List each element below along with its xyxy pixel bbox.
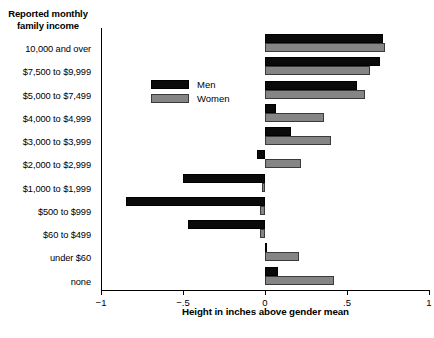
x-axis-title: Height in inches above gender mean [101, 306, 430, 317]
legend-swatch-men [151, 80, 189, 89]
category-label: $3,000 to $3,999 [0, 137, 91, 147]
legend-swatch-women [151, 94, 189, 103]
y-axis-line [101, 28, 102, 290]
bar-men [265, 57, 380, 66]
category-label: $4,000 to $4,999 [0, 114, 91, 124]
category-label: $7,500 to $9,999 [0, 67, 91, 77]
x-tick [429, 290, 430, 295]
bar-women [265, 113, 324, 122]
bar-women [262, 183, 265, 192]
bar-women [265, 43, 385, 52]
category-label: none [0, 277, 91, 287]
bar-women [265, 90, 365, 99]
category-label: $500 to $999 [0, 207, 91, 217]
x-tick [265, 290, 266, 295]
bar-women [260, 206, 265, 215]
y-axis-title: Reported monthly family income [0, 8, 96, 32]
category-label: $5,000 to $7,499 [0, 91, 91, 101]
category-label: $1,000 to $1,999 [0, 184, 91, 194]
bar-women [265, 276, 334, 285]
category-label: under $60 [0, 253, 91, 263]
legend: MenWomen [151, 79, 247, 107]
bar-men [265, 104, 276, 113]
bar-men [183, 174, 265, 183]
category-label: $60 to $499 [0, 230, 91, 240]
category-label-group: 10,000 and over$7,500 to $9,999$5,000 to… [0, 34, 96, 290]
bar-men [265, 127, 291, 136]
bar-women [265, 252, 299, 261]
bar-women [265, 136, 331, 145]
bar-men [257, 150, 265, 159]
legend-label: Men [197, 79, 215, 90]
bar-women [265, 159, 301, 168]
x-tick [183, 290, 184, 295]
x-tick [101, 290, 102, 295]
category-label: $2,000 to $2,999 [0, 160, 91, 170]
bar-women [260, 229, 265, 238]
bar-men [265, 267, 278, 276]
bar-men [188, 220, 265, 229]
bar-men [126, 197, 265, 206]
legend-item: Women [151, 93, 247, 105]
bar-men [265, 243, 267, 252]
legend-item: Men [151, 79, 247, 91]
bar-men [265, 34, 383, 43]
bar-men [265, 81, 357, 90]
x-tick [347, 290, 348, 295]
bar-women [265, 66, 370, 75]
chart-container: Reported monthly family income 10,000 an… [0, 0, 434, 338]
category-label: 10,000 and over [0, 44, 91, 54]
plot-area: −1−.50.51 [101, 28, 429, 290]
legend-label: Women [197, 93, 230, 104]
